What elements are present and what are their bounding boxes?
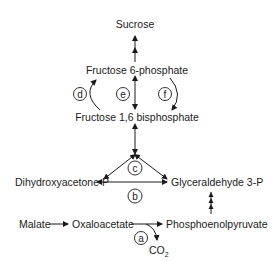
pathway-diagram: Sucrose Fructose 6-phosphate d e f Fruct… <box>0 0 273 261</box>
node-co2: CO2 <box>149 244 169 258</box>
reaction-label-b: b <box>132 191 138 202</box>
reaction-label-e: e <box>120 89 126 100</box>
reaction-label-d: d <box>77 89 83 100</box>
node-sucrose: Sucrose <box>116 18 155 30</box>
arrow-pep-to-g3p <box>209 192 214 214</box>
node-oxaloacetate: Oxaloacetate <box>72 218 134 230</box>
reaction-label-a: a <box>138 233 144 244</box>
node-dihydroxyacetone-p: Dihydroxyacetone P <box>15 176 109 188</box>
arrow-f6p-to-sucrose <box>132 35 138 62</box>
node-fructose-1-6-bisphosphate: Fructose 1,6 bisphosphate <box>75 111 199 123</box>
arrow-d-curved <box>90 80 100 110</box>
node-malate: Malate <box>19 218 51 230</box>
reaction-label-c: c <box>133 163 138 174</box>
node-glyceraldehyde-3-p: Glyceraldehyde 3-P <box>171 176 263 188</box>
node-fructose-6-phosphate: Fructose 6-phosphate <box>86 64 188 76</box>
node-phosphoenolpyruvate: Phosphoenolpyruvate <box>166 218 268 230</box>
reaction-label-f: f <box>164 89 167 100</box>
